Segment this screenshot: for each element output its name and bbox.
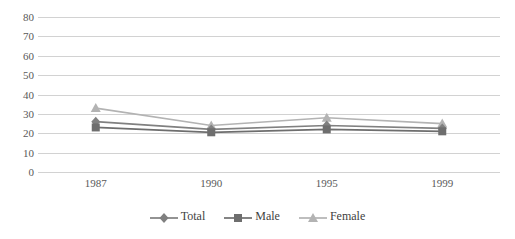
y-axis: 01020304050607080 xyxy=(0,17,34,172)
series-line-female xyxy=(96,108,443,125)
y-tick-label-50: 50 xyxy=(0,70,34,81)
series-line-total xyxy=(96,122,443,130)
plot-area xyxy=(38,17,500,172)
series-total xyxy=(91,117,447,135)
data-point-male-1990 xyxy=(207,128,215,136)
y-tick-label-10: 10 xyxy=(0,147,34,158)
x-tick-label-1987: 1987 xyxy=(85,176,107,191)
legend-marker-square-icon xyxy=(224,210,252,222)
y-tick-label-40: 40 xyxy=(0,89,34,100)
legend-item-male[interactable]: Male xyxy=(224,210,280,222)
x-tick-label-1999: 1999 xyxy=(431,176,453,191)
y-tick-label-70: 70 xyxy=(0,31,34,42)
y-tick-label-60: 60 xyxy=(0,50,34,61)
y-tick-label-30: 30 xyxy=(0,108,34,119)
y-tick-label-80: 80 xyxy=(0,12,34,23)
line-chart: 01020304050607080 1987199019951999 Total… xyxy=(0,0,515,239)
legend-marker-triangle-icon xyxy=(299,210,327,222)
x-tick-label-1990: 1990 xyxy=(200,176,222,191)
y-tick-label-0: 0 xyxy=(0,167,34,178)
data-point-male-1995 xyxy=(323,125,331,133)
legend-item-total[interactable]: Total xyxy=(150,210,206,222)
x-tick-label-1995: 1995 xyxy=(316,176,338,191)
legend-marker-diamond-icon xyxy=(150,210,178,222)
legend-item-female[interactable]: Female xyxy=(299,210,365,222)
x-axis: 1987199019951999 xyxy=(38,176,500,194)
gridline-0 xyxy=(38,172,500,173)
legend-label: Male xyxy=(255,210,280,222)
series-layer xyxy=(38,17,500,172)
data-point-female-1987 xyxy=(91,103,101,112)
data-point-male-1987 xyxy=(92,123,100,131)
legend-label: Total xyxy=(181,210,206,222)
data-point-male-1999 xyxy=(438,127,446,135)
y-tick-label-20: 20 xyxy=(0,128,34,139)
legend-label: Female xyxy=(330,210,365,222)
chart-legend: TotalMaleFemale xyxy=(0,205,515,227)
